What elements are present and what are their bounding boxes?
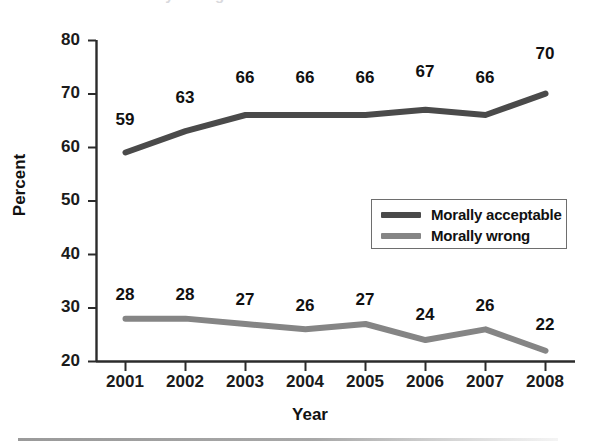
- x-tick-label: 2004: [275, 372, 335, 392]
- line-chart: Morally wrong: [0, 0, 597, 447]
- y-tick-label: 50: [38, 190, 80, 210]
- series-line-morally-wrong: [126, 319, 546, 351]
- data-label: 22: [525, 315, 565, 335]
- x-tick-label: 2008: [515, 372, 575, 392]
- y-tick-label: 80: [38, 30, 80, 50]
- y-tick-label: 40: [38, 244, 80, 264]
- chart-legend: Morally acceptable Morally wrong: [371, 199, 567, 249]
- x-tick-label: 2002: [155, 372, 215, 392]
- y-tick-label: 70: [38, 83, 80, 103]
- y-tick-label: 30: [38, 297, 80, 317]
- data-label: 66: [465, 68, 505, 88]
- x-axis-ticks: [126, 362, 546, 371]
- data-label: 24: [405, 305, 445, 325]
- x-tick-label: 2006: [395, 372, 455, 392]
- data-label: 27: [225, 290, 265, 310]
- x-tick-label: 2007: [455, 372, 515, 392]
- x-tick-label: 2001: [95, 372, 155, 392]
- data-label: 66: [285, 68, 325, 88]
- legend-swatch-icon: [381, 212, 421, 218]
- data-label: 28: [165, 285, 205, 305]
- data-label: 67: [405, 62, 445, 82]
- data-label: 28: [105, 285, 145, 305]
- legend-label: Morally wrong: [431, 227, 530, 244]
- data-label: 63: [165, 88, 205, 108]
- legend-swatch-icon: [381, 233, 421, 239]
- legend-item-morally-wrong: Morally wrong: [381, 225, 530, 246]
- data-label: 70: [525, 44, 565, 64]
- y-axis-title: Percent: [10, 140, 30, 230]
- legend-label: Morally acceptable: [431, 206, 562, 223]
- legend-item-morally-acceptable: Morally acceptable: [381, 204, 562, 225]
- data-label: 59: [105, 110, 145, 130]
- data-label: 26: [285, 296, 325, 316]
- data-label: 27: [345, 290, 385, 310]
- data-label: 66: [345, 68, 385, 88]
- y-axis-ticks: [88, 41, 96, 362]
- x-tick-label: 2003: [215, 372, 275, 392]
- y-tick-label: 20: [38, 351, 80, 371]
- x-tick-label: 2005: [335, 372, 395, 392]
- x-axis-title: Year: [240, 405, 380, 425]
- page-separator-rule: [18, 438, 558, 441]
- data-label: 26: [465, 296, 505, 316]
- data-label: 66: [225, 68, 265, 88]
- y-tick-label: 60: [38, 137, 80, 157]
